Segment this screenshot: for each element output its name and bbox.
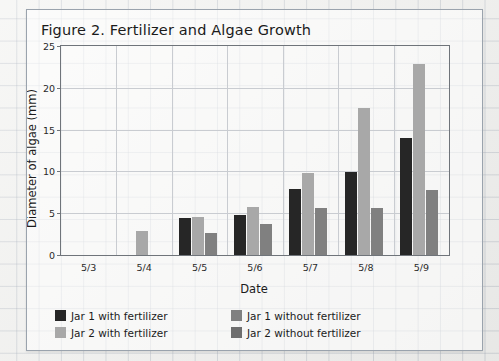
x-tick-label: 5/9	[414, 262, 429, 273]
x-tick-label: 5/4	[136, 262, 151, 273]
y-tick-mark	[57, 130, 61, 131]
bar	[371, 208, 383, 255]
y-tick-label: 25	[43, 41, 55, 52]
bar	[400, 138, 412, 255]
legend-swatch	[55, 327, 66, 338]
y-tick-label: 20	[43, 82, 55, 93]
legend-label: Jar 2 with fertilizer	[71, 327, 167, 339]
legend-item[interactable]: Jar 2 with fertilizer	[55, 324, 227, 341]
bar	[413, 64, 425, 255]
legend-label: Jar 1 without fertilizer	[247, 310, 361, 322]
legend-swatch	[231, 310, 242, 321]
y-tick-label: 0	[49, 250, 55, 261]
y-tick-mark	[57, 46, 61, 47]
bar	[289, 189, 301, 255]
y-axis-title: Diameter of algae (mm)	[26, 54, 39, 263]
legend-item[interactable]: Jar 1 without fertilizer	[231, 307, 455, 324]
x-gridline	[338, 46, 339, 255]
y-gridline	[61, 130, 449, 131]
x-tick-label: 5/8	[358, 262, 373, 273]
legend-label: Jar 2 without fertilizer	[247, 327, 361, 339]
y-gridline	[61, 88, 449, 89]
x-tick-label: 5/7	[303, 262, 318, 273]
x-gridline	[227, 46, 228, 255]
y-tick-label: 10	[43, 166, 55, 177]
bar	[260, 224, 272, 255]
y-tick-label: 5	[49, 208, 55, 219]
legend-label: Jar 1 with fertilizer	[71, 310, 167, 322]
bar	[315, 208, 327, 255]
plot-area: 05101520255/35/45/55/65/75/85/9	[60, 45, 450, 256]
x-gridline	[116, 46, 117, 255]
y-tick-mark	[57, 171, 61, 172]
legend-swatch	[55, 310, 66, 321]
x-axis-title: Date	[60, 282, 448, 296]
y-gridline	[61, 171, 449, 172]
x-tick-label: 5/5	[192, 262, 207, 273]
legend-swatch	[231, 327, 242, 338]
y-tick-mark	[57, 88, 61, 89]
bar	[136, 231, 148, 255]
bar	[234, 215, 246, 255]
y-tick-label: 15	[43, 124, 55, 135]
bar	[358, 108, 370, 255]
x-gridline	[172, 46, 173, 255]
bar	[345, 172, 357, 255]
x-gridline	[394, 46, 395, 255]
x-gridline	[283, 46, 284, 255]
y-tick-mark	[57, 213, 61, 214]
bar	[205, 233, 217, 255]
graph-paper-page: Figure 2. Fertilizer and Algae Growth Di…	[0, 0, 499, 361]
bar	[192, 217, 204, 255]
bar	[302, 173, 314, 255]
figure-card: Figure 2. Fertilizer and Algae Growth Di…	[26, 9, 483, 351]
chart-title: Figure 2. Fertilizer and Algae Growth	[41, 22, 311, 38]
y-tick-mark	[57, 255, 61, 256]
x-tick-label: 5/3	[81, 262, 96, 273]
x-tick-label: 5/6	[247, 262, 262, 273]
plot-inner: 05101520255/35/45/55/65/75/85/9	[61, 46, 449, 255]
legend-item[interactable]: Jar 2 without fertilizer	[231, 324, 455, 341]
chart-legend: Jar 1 with fertilizerJar 1 without ferti…	[55, 307, 455, 341]
bar	[179, 218, 191, 255]
bar	[426, 190, 438, 255]
legend-item[interactable]: Jar 1 with fertilizer	[55, 307, 227, 324]
bar	[247, 207, 259, 255]
